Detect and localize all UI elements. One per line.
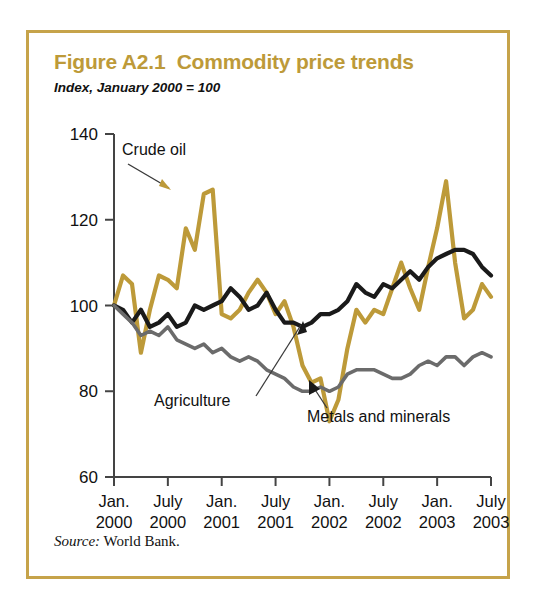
y-axis-tick-label: 120 [70,211,98,230]
x-axis-tick-label-month: July [476,492,506,510]
annotation-agriculture: Agriculture [154,321,307,409]
series-line-crude-oil [114,181,491,421]
annotation-metals-and-minerals: Metals and minerals [307,380,450,425]
x-axis-tick-label-month: Jan. [422,492,453,510]
x-axis-tick-label-year: 2002 [311,513,348,531]
chart-plot-area: 6080100120140 Jan.2000July2000Jan.2001Ju… [29,33,513,582]
y-axis-tick-label: 80 [79,382,98,401]
annotation-agriculture-label: Agriculture [154,392,231,409]
x-axis-tick-label-year: 2001 [257,513,294,531]
x-axis-tick-label-year: 2003 [473,513,510,531]
x-axis-tick-label-month: July [369,492,399,510]
x-axis-tick-label-month: Jan. [314,492,345,510]
figure-container: Figure A2.1 Commodity price trends Index… [26,30,510,579]
annotation-crude-oil-label: Crude oil [122,141,186,158]
annotation-metals-label: Metals and minerals [307,408,450,425]
x-axis-tick-label-year: 2003 [419,513,456,531]
x-axis-tick-label-year: 2000 [96,513,133,531]
x-axis-tick-label-month: July [261,492,291,510]
x-axis-tick-label-year: 2000 [149,513,186,531]
x-axis-tick-label-month: Jan. [206,492,237,510]
series-line-agriculture [114,250,491,327]
annotation-crude-oil-arrowhead [159,179,171,190]
x-axis-tick-label-year: 2001 [203,513,240,531]
source-label: Source: [54,533,100,549]
commodity-price-line-chart: 6080100120140 Jan.2000July2000Jan.2001Ju… [29,33,513,582]
x-axis-tick-labels: Jan.2000July2000Jan.2001July2001Jan.2002… [96,492,510,531]
x-axis-ticks [114,477,491,486]
y-axis-tick-label: 60 [79,468,98,487]
x-axis-tick-label-month: July [153,492,183,510]
x-axis-tick-label-year: 2002 [365,513,402,531]
annotation-crude-oil: Crude oil [122,141,186,190]
source-note: Source: World Bank. [54,533,180,550]
y-axis-tick-label: 100 [70,297,98,316]
y-axis-tick-label: 140 [70,125,98,144]
chart-series-lines [114,181,491,421]
source-text: World Bank. [104,533,180,549]
y-axis-tick-labels: 6080100120140 [70,125,98,487]
x-axis-tick-label-month: Jan. [98,492,129,510]
